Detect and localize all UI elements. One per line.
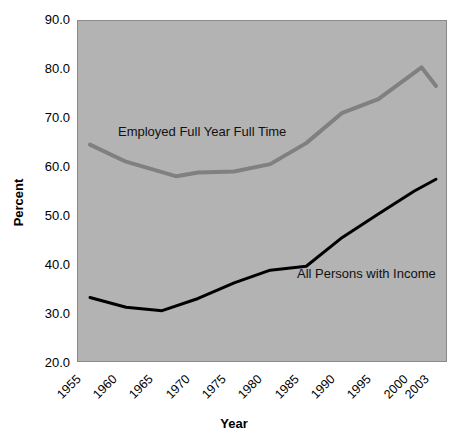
series-annotation-all-persons-with-income: All Persons with Income — [297, 266, 436, 281]
chart-container: Percent Year 90.0 80.0 70.0 60.0 50.0 40… — [0, 0, 468, 441]
series-line-all-persons-with-income — [90, 179, 436, 310]
series-lines-layer — [0, 0, 468, 441]
series-line-employed-full-year-full-time — [90, 67, 436, 176]
series-annotation-employed-full-year-full-time: Employed Full Year Full Time — [118, 124, 286, 139]
